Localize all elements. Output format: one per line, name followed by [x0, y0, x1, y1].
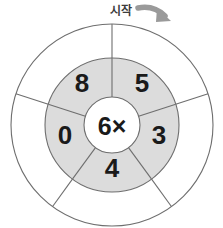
segment-value-right: 3 [152, 120, 166, 150]
center-multiplier-label: 6× [98, 112, 127, 140]
segment-value-top-left: 8 [75, 68, 89, 98]
rotation-arrow-head [156, 8, 171, 22]
clockwise-rotation-arrow [138, 7, 171, 22]
start-label: 시작 [110, 3, 132, 18]
segment-value-left: 0 [58, 120, 72, 150]
multiplication-wheel-figure: 8 5 3 4 0 6× 시작 [0, 0, 223, 228]
segment-value-top-right: 5 [135, 68, 149, 98]
segment-value-bottom: 4 [105, 153, 120, 183]
